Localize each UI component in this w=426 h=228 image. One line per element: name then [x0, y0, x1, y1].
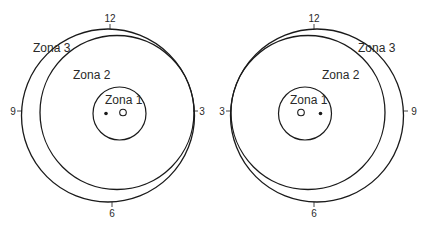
right-open-circle-icon — [298, 109, 305, 116]
right-zone3-label: Zona 3 — [358, 41, 396, 55]
left-figure: 12 9 3 6 Zona 3 Zona 2 Zona 1 — [10, 13, 205, 219]
right-zone2-label: Zona 2 — [322, 68, 360, 82]
left-zone2-label: Zona 2 — [73, 68, 111, 82]
right-clock-6-label: 6 — [311, 208, 317, 219]
right-clock-9-label: 9 — [411, 106, 417, 117]
right-figure: 12 3 9 6 Zona 3 Zona 2 Zona 1 — [219, 13, 417, 219]
left-zone2-circle — [40, 36, 194, 190]
right-clock-12-label: 12 — [308, 13, 320, 24]
left-filled-dot-icon — [104, 112, 108, 116]
right-clock-3-label: 3 — [219, 106, 225, 117]
right-zone1-label: Zona 1 — [290, 93, 328, 107]
left-open-circle-icon — [120, 109, 127, 116]
zone-diagram: 12 9 3 6 Zona 3 Zona 2 Zona 1 12 3 9 6 Z… — [0, 0, 426, 228]
left-clock-12-label: 12 — [104, 13, 116, 24]
left-clock-6-label: 6 — [109, 208, 115, 219]
left-zone1-label: Zona 1 — [105, 93, 143, 107]
left-clock-3-label: 3 — [199, 106, 205, 117]
left-zone3-label: Zona 3 — [33, 41, 71, 55]
right-zone2-circle — [231, 36, 385, 190]
right-filled-dot-icon — [319, 112, 323, 116]
left-clock-9-label: 9 — [10, 106, 16, 117]
